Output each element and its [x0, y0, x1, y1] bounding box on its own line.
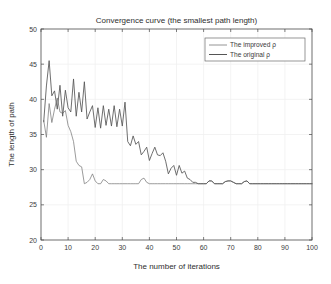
y-tick-label: 50 [29, 26, 37, 33]
legend-label-original: The original ρ [230, 51, 270, 59]
x-tick-label: 0 [39, 244, 43, 251]
x-tick-label: 10 [64, 244, 72, 251]
chart-title: Convergence curve (the smallest path len… [96, 16, 258, 25]
x-tick-label: 20 [91, 244, 99, 251]
y-tick-label: 35 [29, 131, 37, 138]
x-tick-label: 80 [254, 244, 262, 251]
legend-label-improved: The improved ρ [230, 41, 276, 49]
y-tick-label: 45 [29, 61, 37, 68]
chart-figure: Convergence curve (the smallest path len… [0, 0, 331, 284]
x-tick-label: 30 [118, 244, 126, 251]
convergence-chart: Convergence curve (the smallest path len… [0, 0, 331, 284]
x-tick-label: 50 [173, 244, 181, 251]
x-axis-label: The number of iterations [133, 262, 220, 271]
x-tick-label: 70 [227, 244, 235, 251]
x-tick-label: 60 [200, 244, 208, 251]
y-tick-label: 20 [29, 237, 37, 244]
x-tick-label: 100 [306, 244, 318, 251]
y-tick-label: 25 [29, 201, 37, 208]
y-axis-label: The length of path [7, 102, 16, 167]
y-tick-label: 40 [29, 96, 37, 103]
x-tick-label: 90 [281, 244, 289, 251]
y-tick-label: 30 [29, 166, 37, 173]
x-tick-label: 40 [146, 244, 154, 251]
legend[interactable]: The improved ρ The original ρ [205, 38, 305, 61]
